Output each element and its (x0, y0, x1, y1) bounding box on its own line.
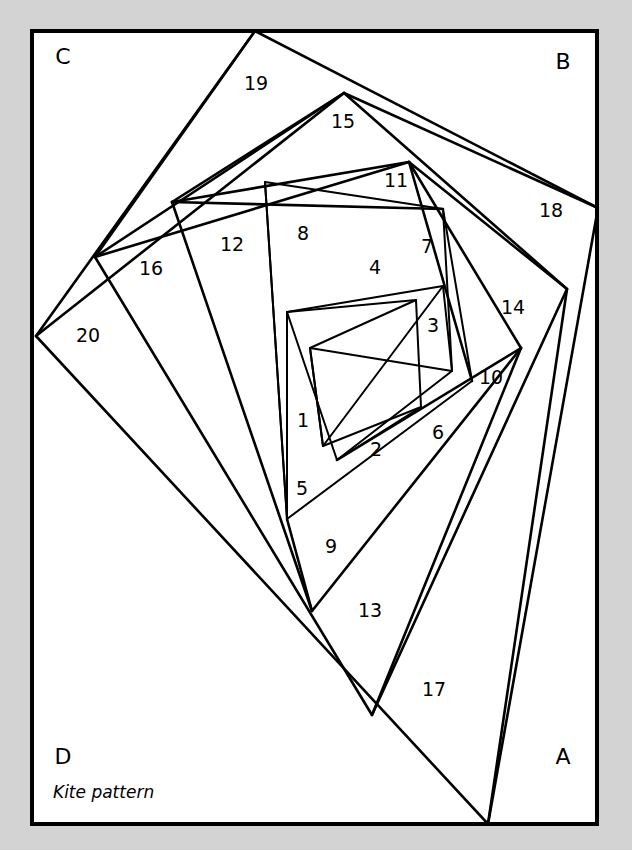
cell-label-16: 16 (139, 257, 163, 279)
cell-label-9: 9 (325, 535, 337, 557)
cell-label-3: 3 (427, 314, 439, 336)
kite-pattern-figure: 1 2 3 4 5 6 7 8 9 10 11 12 13 14 15 16 1… (0, 0, 632, 850)
cell-label-6: 6 (432, 421, 444, 443)
plate-background (32, 31, 597, 824)
corner-label-c: C (55, 44, 70, 69)
cell-label-2: 2 (370, 438, 382, 460)
cell-label-8: 8 (297, 222, 309, 244)
corner-label-b: B (555, 49, 570, 74)
corner-label-d: D (55, 744, 72, 769)
cell-label-1: 1 (297, 409, 309, 431)
figure-caption: Kite pattern (53, 782, 154, 802)
cell-label-20: 20 (76, 324, 100, 346)
cell-label-7: 7 (421, 235, 433, 257)
cell-label-11: 11 (384, 169, 408, 191)
cell-label-10: 10 (479, 366, 503, 388)
cell-label-5: 5 (296, 477, 308, 499)
cell-label-12: 12 (220, 233, 244, 255)
cell-label-14: 14 (501, 296, 525, 318)
cell-label-17: 17 (422, 678, 446, 700)
cell-label-19: 19 (244, 72, 268, 94)
cell-label-15: 15 (331, 110, 355, 132)
cell-label-18: 18 (539, 199, 563, 221)
cell-label-13: 13 (358, 599, 382, 621)
cell-label-4: 4 (369, 256, 381, 278)
corner-label-a: A (555, 744, 570, 769)
kite-pattern-drawing: 1 2 3 4 5 6 7 8 9 10 11 12 13 14 15 16 1… (0, 0, 632, 850)
